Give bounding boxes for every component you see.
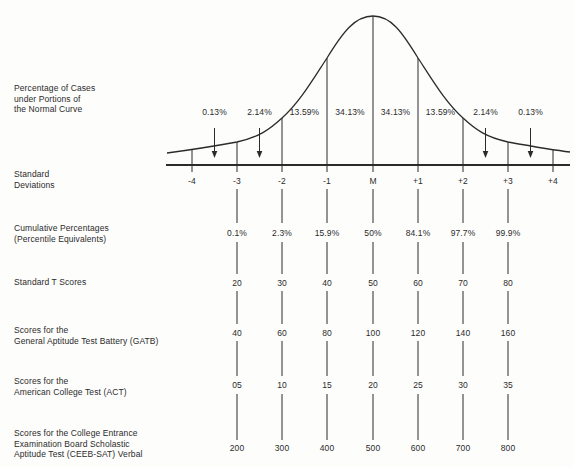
curve-percentage-label: 2.14% [473,107,498,117]
ceeb-value: 300 [275,443,289,453]
act-value: 05 [232,380,242,390]
cumulative-value: 99.9% [496,228,521,238]
sd-value: M [369,176,376,186]
sd-value: +4 [548,176,558,186]
tscores-value: 80 [503,278,513,288]
gatb-value: 60 [277,328,287,338]
label-standard-deviations: Standard Deviations [14,169,55,190]
act-value: 20 [368,380,378,390]
act-value: 10 [277,380,287,390]
arrow-head-icon [528,151,534,158]
arrow-head-icon [257,151,263,158]
normal-curve-path [167,16,570,153]
tscores-value: 30 [277,278,287,288]
curve-percentage-label: 13.59% [426,107,455,117]
gatb-value: 100 [366,328,380,338]
ceeb-value: 800 [501,443,515,453]
ceeb-value: 500 [366,443,380,453]
curve-percentage-label: 34.13% [381,107,410,117]
sd-value: +1 [413,176,423,186]
ceeb-value: 200 [230,443,244,453]
label-cumulative-percentages: Cumulative Percentages (Percentile Equiv… [14,223,109,244]
gatb-value: 80 [322,328,332,338]
curve-percentage-label: 0.13% [518,107,543,117]
cumulative-value: 0.1% [227,228,247,238]
cumulative-value: 84.1% [406,228,431,238]
curve-percentage-label: 34.13% [335,107,364,117]
gatb-value: 160 [501,328,515,338]
act-value: 25 [413,380,423,390]
act-value: 35 [503,380,513,390]
sd-value: -2 [278,176,286,186]
curve-section-lines [237,16,508,172]
label-gatb: Scores for the General Aptitude Test Bat… [14,325,159,346]
tscores-value: 50 [368,278,378,288]
arrow-head-icon [212,151,218,158]
ceeb-value: 600 [411,443,425,453]
label-percentage-of-cases: Percentage of Cases under Portions of th… [14,83,95,115]
arrow-head-icon [483,151,489,158]
curve-percentage-label: 0.13% [202,107,227,117]
tscores-value: 60 [413,278,423,288]
sd-value: -3 [233,176,241,186]
normal-curve-diagram: Percentage of Cases under Portions of th… [0,0,574,467]
scale-column-lines [237,189,508,440]
act-value: 30 [458,380,468,390]
cumulative-value: 2.3% [272,228,292,238]
curve-percentage-label: 13.59% [290,107,319,117]
gatb-value: 120 [411,328,425,338]
gatb-value: 140 [456,328,470,338]
cumulative-value: 50% [364,228,381,238]
tscores-value: 20 [232,278,242,288]
sd-value: +3 [503,176,513,186]
curve-percentage-label: 2.14% [247,107,272,117]
label-ceeb-sat: Scores for the College Entrance Examinat… [14,428,142,460]
tscores-value: 40 [322,278,332,288]
ceeb-value: 700 [456,443,470,453]
sd-value: -4 [188,176,196,186]
sd-value: +2 [458,176,468,186]
label-standard-t-scores: Standard T Scores [14,277,86,288]
gatb-value: 40 [232,328,242,338]
ceeb-value: 400 [320,443,334,453]
act-value: 15 [322,380,332,390]
cumulative-value: 97.7% [451,228,476,238]
tscores-value: 70 [458,278,468,288]
label-act: Scores for the American College Test (AC… [14,376,127,397]
sd-value: -1 [323,176,331,186]
cumulative-value: 15.9% [315,228,340,238]
